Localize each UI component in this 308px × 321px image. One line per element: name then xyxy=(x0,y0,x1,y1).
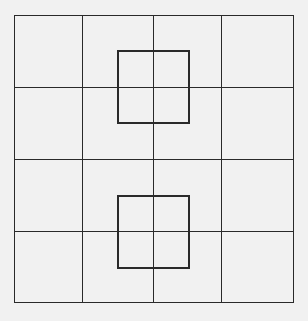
grid-diagram xyxy=(0,0,308,321)
grid xyxy=(15,16,294,303)
